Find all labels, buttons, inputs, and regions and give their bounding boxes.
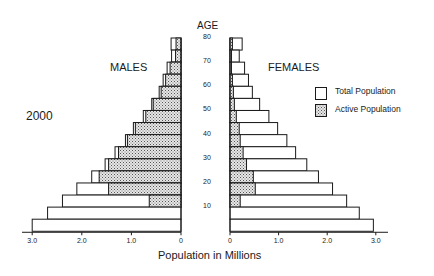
female-active-bar <box>230 147 243 159</box>
female-x-tick-label: 2.0 <box>320 237 334 244</box>
male-x-tick-label: 2.0 <box>75 237 89 244</box>
male-active-bar <box>153 98 181 110</box>
female-active-bar <box>230 159 247 171</box>
age-tick-label: 10 <box>199 202 215 209</box>
male-active-bar <box>119 147 181 159</box>
females-label: FEMALES <box>268 61 319 73</box>
male-active-bar <box>127 135 181 147</box>
female-active-bar <box>230 123 239 135</box>
female-active-bar <box>230 171 253 183</box>
male-active-bar <box>170 62 181 74</box>
legend-label-total: Total Population <box>335 86 396 96</box>
female-x-tick-label: 1.0 <box>272 237 286 244</box>
year-label: 2000 <box>26 109 53 123</box>
male-active-bar <box>176 38 181 50</box>
x-axis-title: Population in Millions <box>158 249 261 261</box>
male-x-tick-label: 3.0 <box>25 237 39 244</box>
age-axis-title: AGE <box>197 20 218 31</box>
female-total-bar <box>230 195 347 207</box>
female-total-bar <box>230 62 245 74</box>
female-active-bar <box>230 195 240 207</box>
male-total-bar <box>32 219 181 231</box>
age-tick-label: 70 <box>199 57 215 64</box>
female-x-tick-label: 0 <box>223 237 237 244</box>
male-active-bar <box>146 110 181 122</box>
male-active-bar <box>149 195 181 207</box>
male-x-tick-label: 0 <box>174 237 188 244</box>
male-active-bar <box>161 86 181 98</box>
age-tick-label: 40 <box>199 130 215 137</box>
male-active-bar <box>109 159 181 171</box>
male-bars <box>32 38 181 231</box>
age-tick-label: 50 <box>199 105 215 112</box>
female-active-bar <box>230 183 255 195</box>
age-tick-label: 30 <box>199 154 215 161</box>
female-active-bar <box>230 110 236 122</box>
female-total-bar <box>230 207 359 219</box>
male-total-bar <box>48 207 181 219</box>
legend-label-active: Active Population <box>335 104 401 114</box>
legend-swatch-active-icon <box>315 104 327 117</box>
male-active-bar <box>166 74 181 86</box>
population-pyramid-chart <box>0 0 434 276</box>
male-x-tick-label: 1.0 <box>124 237 138 244</box>
female-active-bar <box>230 98 234 110</box>
male-active-bar <box>135 123 181 135</box>
female-total-bar <box>230 219 373 231</box>
female-x-tick-label: 3.0 <box>369 237 383 244</box>
male-active-bar <box>176 50 181 62</box>
female-active-bar <box>230 135 240 147</box>
legend-swatch-total-icon <box>315 87 327 100</box>
female-active-bar <box>230 86 233 98</box>
male-active-bar <box>109 183 181 195</box>
males-label: MALES <box>110 61 147 73</box>
age-tick-label: 20 <box>199 178 215 185</box>
male-active-bar <box>99 171 181 183</box>
age-tick-label: 80 <box>199 33 215 40</box>
age-tick-label: 60 <box>199 81 215 88</box>
